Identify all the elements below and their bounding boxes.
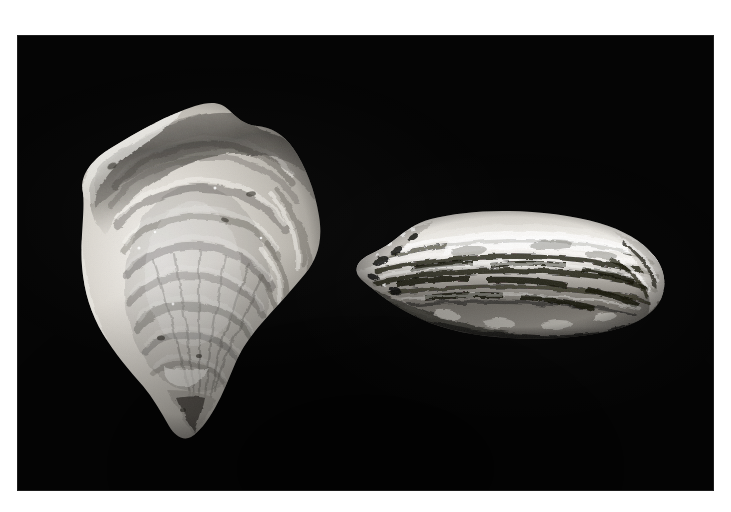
photo-description: Two oyster shells photographed against a… [0, 0, 1, 1]
photo-plate-background [17, 35, 714, 491]
left-oyster-shell-interior-view [65, 98, 340, 440]
photograph-page: Two oyster shells photographed against a… [0, 0, 731, 512]
right-oyster-shell-edge-view [351, 207, 671, 343]
